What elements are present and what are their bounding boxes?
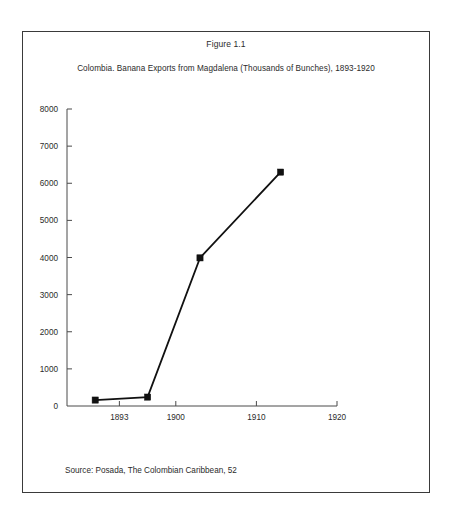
data-point-marker xyxy=(277,169,283,175)
x-tick-label: 1900 xyxy=(167,413,186,422)
x-axis: 1893190019101920 xyxy=(67,401,347,422)
y-tick-label: 3000 xyxy=(40,291,59,300)
series-line xyxy=(95,172,280,400)
y-tick-label: 1000 xyxy=(40,365,59,374)
data-point-marker xyxy=(92,397,98,403)
line-chart-plot: 010002000300040005000600070008000 189319… xyxy=(23,32,431,494)
y-tick-label: 5000 xyxy=(40,216,59,225)
figure-frame: Figure 1.1 Colombia. Banana Exports from… xyxy=(22,31,430,493)
figure-source-note: Source: Posada, The Colombian Caribbean,… xyxy=(65,466,237,475)
y-tick-label: 4000 xyxy=(40,254,59,263)
y-tick-label: 0 xyxy=(53,402,58,411)
y-tick-label: 8000 xyxy=(40,105,59,114)
x-tick-label: 1893 xyxy=(110,413,129,422)
data-point-marker xyxy=(197,255,203,261)
y-tick-label: 6000 xyxy=(40,179,59,188)
y-axis: 010002000300040005000600070008000 xyxy=(40,105,72,411)
data-point-marker xyxy=(145,394,151,400)
data-series xyxy=(92,169,284,403)
x-tick-label: 1910 xyxy=(247,413,266,422)
x-tick-label: 1920 xyxy=(328,413,347,422)
y-tick-label: 2000 xyxy=(40,328,59,337)
y-tick-label: 7000 xyxy=(40,142,59,151)
